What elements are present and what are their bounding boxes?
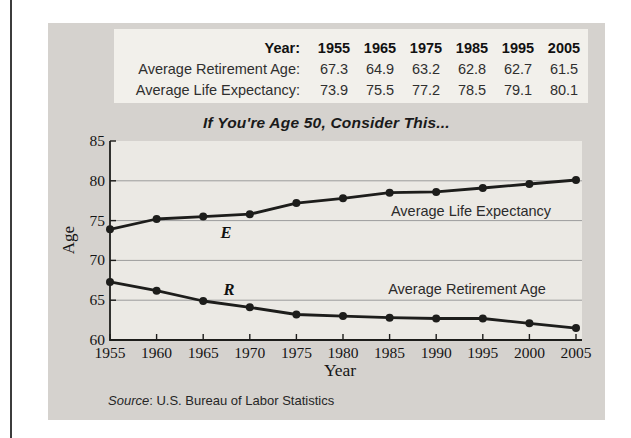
table-cell: 79.1 (495, 80, 541, 101)
table-cell: 62.8 (449, 59, 495, 80)
source-word: Source (108, 393, 149, 408)
table-cell: 1975 (403, 38, 449, 59)
table-year-header: Year: (114, 38, 300, 59)
source-text: : U.S. Bureau of Labor Statistics (149, 393, 334, 408)
table-cell: 1955 (311, 38, 357, 59)
chart-title: If You're Age 50, Consider This... (48, 114, 605, 132)
table-cell: 80.1 (541, 80, 587, 101)
table-row-label: Average Retirement Age: (114, 59, 300, 80)
table-cell: 61.5 (541, 59, 587, 80)
table-cell: 1995 (495, 38, 541, 59)
table-cell: 64.9 (357, 59, 403, 80)
table-cell: 62.7 (495, 59, 541, 80)
table-cell: 75.5 (357, 80, 403, 101)
table-row: Average Retirement Age: 67.364.963.262.8… (114, 59, 588, 80)
table-row-label: Average Life Expectancy: (114, 80, 300, 101)
table-cell: 67.3 (311, 59, 357, 80)
page-edge-line (10, 0, 12, 438)
table-row-cells: 73.975.577.278.579.180.1 (311, 80, 587, 101)
data-table: Year: 195519651975198519952005 Average R… (114, 29, 588, 103)
table-year-row: Year: 195519651975198519952005 (114, 38, 588, 59)
table-cell: 78.5 (449, 80, 495, 101)
chart-panel: Year: 195519651975198519952005 Average R… (48, 23, 605, 420)
table-year-cells: 195519651975198519952005 (311, 38, 587, 59)
table-row: Average Life Expectancy: 73.975.577.278.… (114, 80, 588, 101)
table-cell: 63.2 (403, 59, 449, 80)
table-cell: 1985 (449, 38, 495, 59)
table-cell: 1965 (357, 38, 403, 59)
source-note: Source: U.S. Bureau of Labor Statistics (108, 393, 334, 408)
table-row-cells: 67.364.963.262.862.761.5 (311, 59, 587, 80)
table-cell: 2005 (541, 38, 587, 59)
table-cell: 77.2 (403, 80, 449, 101)
table-cell: 73.9 (311, 80, 357, 101)
